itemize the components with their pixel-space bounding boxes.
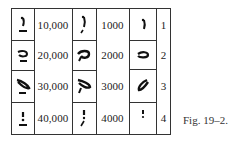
glyph-cell: [72, 102, 96, 134]
index-cell: 3: [156, 70, 171, 102]
value-cell: 40,000: [34, 102, 72, 134]
hieratic-30000-icon: [14, 75, 32, 97]
value-cell: 10,000: [34, 9, 72, 40]
glyph-cell: [129, 9, 156, 40]
hieratic-3000-icon: [75, 75, 93, 97]
hieratic-unit-icon: [134, 14, 152, 36]
hieratic-4-icon: [134, 108, 152, 130]
hieratic-20000-icon: [14, 44, 32, 66]
hieratic-10000-icon: [14, 14, 32, 36]
numeral-table: 10,000 1000 1 20,000 2000 2: [11, 8, 171, 135]
glyph-cell: [72, 40, 96, 70]
glyph-cell: [129, 69, 156, 102]
hieratic-2-icon: [134, 44, 152, 66]
glyph-cell: [12, 102, 34, 134]
index-cell: 4: [156, 102, 171, 134]
index-cell: 1: [156, 9, 171, 40]
value-cell: 3000: [96, 70, 129, 102]
glyph-cell: [12, 9, 34, 40]
value-cell: 1000: [96, 9, 129, 40]
glyph-cell: [129, 40, 156, 69]
glyph-cell: [72, 9, 96, 40]
hieratic-4000-icon: [75, 107, 93, 129]
glyph-cell: [129, 102, 156, 134]
glyph-cell: [12, 70, 34, 102]
hieratic-40000-icon: [14, 107, 32, 129]
value-cell: 20,000: [34, 40, 72, 70]
value-cell: 4000: [96, 102, 129, 134]
hieratic-2000-icon: [75, 44, 93, 66]
glyph-cell: [12, 40, 34, 70]
glyph-cell: [72, 70, 96, 102]
value-cell: 30,000: [34, 70, 72, 102]
index-cell: 2: [156, 40, 171, 70]
value-cell: 2000: [96, 40, 129, 70]
hieratic-1000-icon: [75, 14, 93, 36]
hieratic-3-icon: [134, 75, 152, 97]
figure-caption: Fig. 19–2.: [183, 114, 228, 126]
